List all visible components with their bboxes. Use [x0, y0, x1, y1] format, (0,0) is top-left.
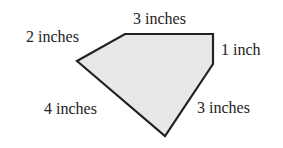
label-lower-left-side: 4 inches	[44, 100, 97, 117]
label-upper-left-side: 2 inches	[26, 28, 79, 45]
label-right-side: 1 inch	[221, 41, 261, 58]
pentagon-diagram: 3 inches 2 inches 1 inch 4 inches 3 inch…	[0, 0, 283, 148]
pentagon-shape	[77, 34, 213, 136]
label-lower-right-side: 3 inches	[197, 99, 250, 116]
label-top-side: 3 inches	[133, 10, 186, 27]
